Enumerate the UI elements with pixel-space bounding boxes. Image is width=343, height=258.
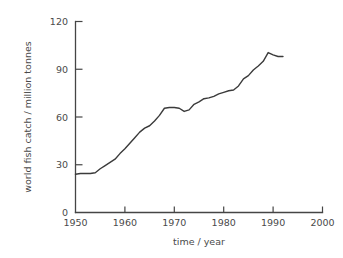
y-axis-title: world fish catch / million tonnes xyxy=(22,41,33,192)
y-tick-label-60: 60 xyxy=(56,112,68,123)
x-tick-label-1980: 1980 xyxy=(212,217,236,228)
line-chart: 120 90 60 30 0 1950 1960 1970 1980 1990 … xyxy=(0,0,343,258)
x-axis-title: time / year xyxy=(173,236,225,247)
x-tick-label-1970: 1970 xyxy=(162,217,186,228)
y-tickmarks xyxy=(76,22,83,165)
x-tick-label-2000: 2000 xyxy=(310,217,334,228)
y-tick-label-30: 30 xyxy=(56,159,68,170)
x-tick-label-1990: 1990 xyxy=(261,217,285,228)
y-tick-label-90: 90 xyxy=(56,64,68,75)
x-tickmarks xyxy=(125,207,323,213)
x-tick-label-1950: 1950 xyxy=(63,217,87,228)
y-tick-label-120: 120 xyxy=(50,16,68,27)
data-line-world-fish-catch xyxy=(76,53,283,175)
x-tick-label-1960: 1960 xyxy=(113,217,137,228)
chart-figure: 120 90 60 30 0 1950 1960 1970 1980 1990 … xyxy=(0,0,343,258)
